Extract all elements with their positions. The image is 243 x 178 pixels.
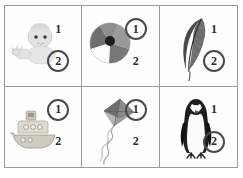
option-1[interactable]: 1 <box>125 99 147 121</box>
option-1[interactable]: 1 <box>125 18 147 40</box>
worksheet-cell-1[interactable]: 1 2 <box>5 6 82 87</box>
option-2[interactable]: 2 <box>203 131 225 153</box>
worksheet-cell-3[interactable]: 1 2 <box>160 6 237 87</box>
option-1[interactable]: 1 <box>203 99 225 121</box>
option-1[interactable]: 1 <box>47 18 69 40</box>
worksheet-cell-2[interactable]: 1 2 <box>82 6 159 87</box>
option-2[interactable]: 2 <box>47 50 69 72</box>
worksheet-cell-4[interactable]: 1 2 <box>5 87 82 168</box>
option-1[interactable]: 1 <box>203 18 225 40</box>
option-2[interactable]: 2 <box>125 131 147 153</box>
worksheet-grid: 1 2 1 2 <box>4 5 238 168</box>
worksheet-cell-5[interactable]: 1 2 <box>82 87 159 168</box>
option-2[interactable]: 2 <box>47 131 69 153</box>
option-2[interactable]: 2 <box>203 50 225 72</box>
option-1[interactable]: 1 <box>47 99 69 121</box>
worksheet-cell-6[interactable]: 1 2 <box>160 87 237 168</box>
option-2[interactable]: 2 <box>125 50 147 72</box>
